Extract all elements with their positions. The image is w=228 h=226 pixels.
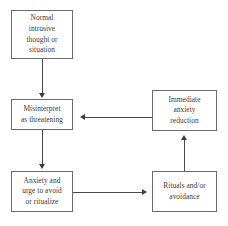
node-immediate-anxiety-reduction-label: Immediate anxiety reduction bbox=[155, 95, 214, 127]
node-line: thought or bbox=[14, 35, 70, 46]
node-line: Anxiety and bbox=[14, 176, 70, 187]
edge-anxiety-to-rituals-line bbox=[73, 192, 143, 193]
node-line: reduction bbox=[155, 116, 214, 127]
cut-off-header-text bbox=[0, 0, 228, 4]
node-anxiety-and-urge-label: Anxiety and urge to avoid or ritualize bbox=[14, 176, 70, 208]
edge-thought-to-misinterpret-arrowhead bbox=[39, 93, 45, 98]
node-misinterpret-as-threatening-label: Misinterpret as threatening bbox=[14, 104, 70, 125]
node-anxiety-and-urge: Anxiety and urge to avoid or ritualize bbox=[11, 171, 73, 212]
node-normal-intrusive-thought: Normal intrusive thought or situation bbox=[11, 10, 73, 59]
edge-thought-to-misinterpret-line bbox=[42, 59, 43, 94]
edge-reduction-to-misinterpret-line bbox=[85, 117, 152, 118]
edge-reduction-to-misinterpret-arrowhead bbox=[80, 114, 85, 120]
node-line: or ritualize bbox=[14, 197, 70, 208]
node-line: Immediate bbox=[155, 95, 214, 106]
edge-anxiety-to-rituals-arrowhead bbox=[142, 189, 147, 195]
node-line: intrusive bbox=[14, 24, 70, 35]
node-line: Normal bbox=[14, 13, 70, 24]
node-normal-intrusive-thought-label: Normal intrusive thought or situation bbox=[14, 13, 70, 55]
node-line: as threatening bbox=[14, 115, 70, 126]
node-line: Rituals and/or bbox=[155, 181, 214, 192]
edge-misinterpret-to-anxiety-arrowhead bbox=[39, 164, 45, 169]
node-line: avoidance bbox=[155, 192, 214, 203]
node-line: anxiety bbox=[155, 105, 214, 116]
flowchart-canvas: Normal intrusive thought or situation Mi… bbox=[0, 0, 228, 226]
node-line: situation bbox=[14, 45, 70, 56]
edge-rituals-to-reduction-arrowhead bbox=[181, 135, 187, 140]
edge-misinterpret-to-anxiety-line bbox=[42, 130, 43, 165]
edge-rituals-to-reduction-line bbox=[184, 140, 185, 171]
node-misinterpret-as-threatening: Misinterpret as threatening bbox=[11, 99, 73, 130]
node-immediate-anxiety-reduction: Immediate anxiety reduction bbox=[152, 90, 217, 131]
node-line: Misinterpret bbox=[14, 104, 70, 115]
node-rituals-and-or-avoidance-label: Rituals and/or avoidance bbox=[155, 181, 214, 202]
node-line: urge to avoid bbox=[14, 186, 70, 197]
node-rituals-and-or-avoidance: Rituals and/or avoidance bbox=[152, 171, 217, 212]
